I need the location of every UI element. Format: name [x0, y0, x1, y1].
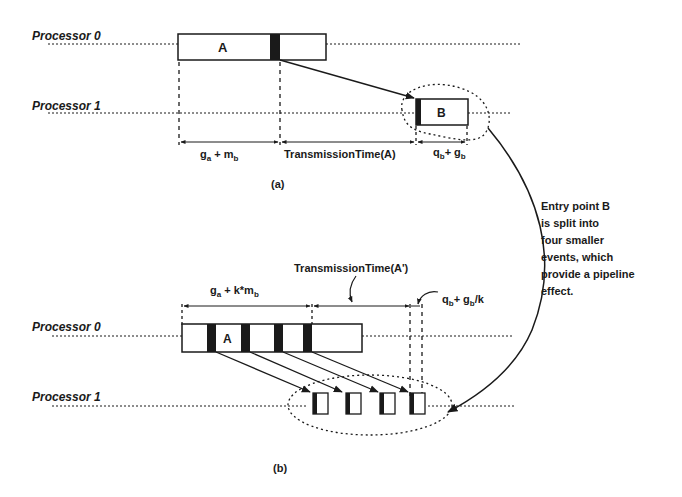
message-arrow-a — [280, 60, 414, 98]
event-a-bar — [178, 34, 326, 60]
interval-label-3-b: qb+ gb/k — [442, 293, 485, 308]
annotation-line: Entry point B — [541, 198, 681, 215]
interval-label-1-b: ga + k*mb — [210, 284, 259, 299]
send-marker — [270, 34, 280, 60]
event-a-label-b: A — [223, 332, 232, 346]
annotation-line: provide a pipeline — [541, 266, 681, 283]
processor-1-label-a: Processor 1 — [32, 99, 101, 113]
processor-1-label-b: Processor 1 — [32, 390, 101, 404]
part-a: Processor 0 Processor 1 A B ga + mb — [32, 29, 520, 190]
processor-0-label-b: Processor 0 — [32, 320, 101, 334]
receive-marker — [416, 99, 421, 125]
send-marker-4 — [303, 324, 312, 352]
split-event-2 — [346, 393, 361, 414]
annotation-line: effect. — [541, 283, 681, 300]
split-connector-arrow — [448, 128, 545, 412]
send-marker-2 — [241, 324, 250, 352]
annotation-line: is split into — [541, 215, 681, 232]
event-b-label: B — [437, 106, 446, 120]
caption-b: (b) — [273, 462, 287, 474]
send-marker-1 — [207, 324, 216, 352]
caption-a: (a) — [271, 178, 285, 190]
interval-label-1-a: ga + mb — [200, 148, 239, 163]
split-event-4 — [410, 393, 425, 414]
split-event-3 — [380, 393, 395, 414]
transmission-pointer-arrow — [350, 276, 356, 302]
annotation-line: four smaller — [541, 232, 681, 249]
annotation-line: events, which — [541, 249, 681, 266]
annotation-note: Entry point B is split into four smaller… — [541, 198, 681, 300]
interval-label-2-a: TransmissionTime(A) — [284, 148, 396, 160]
interval-label-2-b: TransmissionTime(A') — [294, 262, 409, 274]
send-marker-3 — [274, 324, 283, 352]
message-arrow-b-4 — [312, 352, 408, 392]
qb-pointer-arrow — [418, 292, 438, 304]
processor-0-label-a: Processor 0 — [32, 29, 101, 43]
event-a-label: A — [218, 40, 228, 55]
split-event-1 — [313, 393, 328, 414]
part-b: TransmissionTime(A') ga + k*mb qb+ gb/k … — [32, 262, 516, 474]
interval-label-3-a: qb+ gb — [433, 146, 466, 161]
